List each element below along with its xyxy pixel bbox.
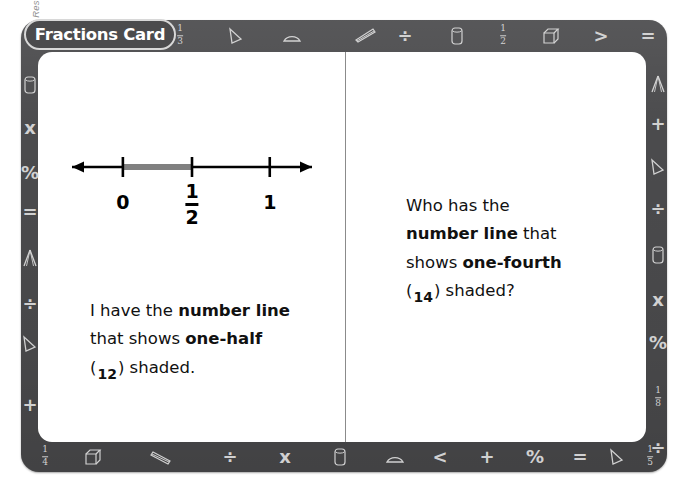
question-fraction: 14: [413, 290, 433, 304]
divide-icon: ÷: [397, 27, 412, 45]
less-than-icon: <: [432, 448, 447, 466]
plus-icon: +: [650, 115, 665, 133]
answer-fraction-denominator: 2: [107, 366, 117, 382]
question-line-2-bold: number line: [406, 224, 518, 243]
number-line-svg: [62, 150, 322, 184]
answer-paren-close: ) shaded.: [118, 358, 195, 377]
answer-statement: I have the number line that shows one-ha…: [90, 297, 350, 382]
ruler-icon: [354, 27, 378, 45]
triangle-icon: [608, 448, 626, 466]
answer-line-1: I have the number line: [90, 297, 350, 325]
cylinder-icon: [22, 75, 38, 95]
plus-icon: +: [479, 448, 494, 466]
ruler-icon: [148, 448, 172, 466]
percent-icon: %: [21, 164, 39, 182]
answer-line-2-bold: one-half: [185, 329, 262, 348]
triangle-icon: [649, 158, 667, 176]
fraction-one-eighth-icon: 18: [655, 386, 661, 409]
fraction-one-third-icon: 13: [177, 24, 183, 47]
answer-line-3: (12) shaded.: [90, 354, 350, 382]
question-paren-open: (: [406, 281, 412, 300]
divide-icon: ÷: [22, 295, 37, 313]
question-line-3-bold: one-fourth: [463, 253, 562, 272]
answer-paren-open: (: [90, 358, 96, 377]
card-page: Ask & Answer Interactive Math Practice: …: [0, 0, 682, 498]
cube-icon: [84, 448, 102, 466]
cylinder-icon: [650, 245, 666, 265]
card-title: Fractions Card: [35, 25, 165, 44]
fraction-numerator: 1: [185, 182, 198, 201]
triangle-icon: [227, 27, 245, 45]
compass-icon: [21, 248, 39, 268]
question-fraction-denominator: 4: [423, 289, 433, 305]
protractor-icon: [282, 28, 302, 44]
cube-icon: [542, 27, 560, 45]
question-line-3: shows one-fourth: [406, 249, 646, 277]
fraction-one-half-icon: 12: [500, 24, 506, 47]
divide-icon: ÷: [650, 439, 665, 457]
multiply-icon: x: [279, 448, 291, 466]
number-line-label-fraction: 12: [185, 182, 198, 227]
answer-line-1-bold: number line: [178, 301, 290, 320]
multiply-icon: x: [24, 119, 36, 137]
question-line-3-text: shows: [406, 253, 463, 272]
question-paren-close: ) shaded?: [434, 281, 515, 300]
number-line-diagram: 0121: [62, 150, 322, 240]
equals-icon: =: [22, 203, 37, 221]
question-line-1: Who has the: [406, 192, 646, 220]
compass-icon: [649, 74, 667, 94]
percent-icon: %: [526, 448, 544, 466]
card-title-tab: Fractions Card: [24, 19, 176, 50]
equals-icon: =: [572, 448, 587, 466]
percent-icon: %: [649, 334, 667, 352]
equals-icon: =: [640, 27, 655, 45]
answer-line-1-text: I have the: [90, 301, 178, 320]
multiply-icon: x: [652, 291, 664, 309]
answer-fraction: 12: [97, 367, 117, 381]
question-line-1-text: Who has the: [406, 196, 510, 215]
question-statement: Who has the number line that shows one-f…: [406, 192, 646, 306]
question-line-2-text: that: [518, 224, 557, 243]
number-line-label: 1: [263, 191, 276, 213]
divide-icon: ÷: [650, 200, 665, 218]
answer-line-2: that shows one-half: [90, 325, 350, 353]
fraction-one-fourth-icon: 14: [42, 445, 48, 468]
card-face: 0121 I have the number line that shows o…: [38, 52, 646, 442]
fraction-denominator: 2: [185, 208, 198, 227]
question-line-2: number line that: [406, 220, 646, 248]
question-line-4: (14) shaded?: [406, 277, 646, 305]
divide-icon: ÷: [222, 448, 237, 466]
greater-than-icon: >: [593, 27, 608, 45]
triangle-icon: [21, 335, 39, 353]
cylinder-icon: [449, 26, 465, 46]
question-fraction-numerator: 1: [413, 289, 423, 305]
answer-fraction-numerator: 1: [97, 366, 107, 382]
answer-line-2-text: that shows: [90, 329, 185, 348]
protractor-icon: [385, 449, 405, 465]
cylinder-icon: [332, 447, 348, 467]
center-divider: [345, 52, 346, 442]
plus-icon: +: [22, 396, 37, 414]
number-line-label: 0: [116, 191, 129, 213]
